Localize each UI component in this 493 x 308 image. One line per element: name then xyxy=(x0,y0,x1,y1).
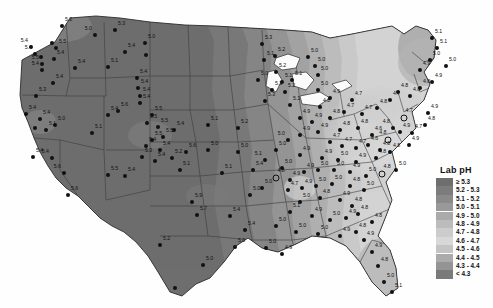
station-value-label: 5.0 xyxy=(269,239,276,244)
station-value-label: 4.7 xyxy=(333,133,340,138)
station-value-label: 5.4 xyxy=(143,94,150,99)
station-marker: 5.4 xyxy=(40,68,44,72)
open-circle-icon xyxy=(379,171,386,178)
filled-dot-icon xyxy=(280,252,284,256)
station-value-label: 4.8 xyxy=(393,143,400,148)
filled-dot-icon xyxy=(40,68,44,72)
station-marker: 5.0 xyxy=(53,123,57,127)
station-value-label: 5.0 xyxy=(148,34,155,39)
station-value-label: 5.0 xyxy=(369,167,376,172)
legend-title: Lab pH xyxy=(440,165,493,175)
station-value-label: 4.8 xyxy=(383,141,390,146)
station-marker: 4.9 xyxy=(362,238,366,242)
filled-dot-icon xyxy=(374,156,378,160)
station-marker: 5.1 xyxy=(288,103,292,107)
station-marker: 4.8 xyxy=(356,126,360,130)
station-value-label: 5.1 xyxy=(111,58,118,63)
station-value-label: 5.0 xyxy=(337,161,344,166)
station-marker: 5.4 xyxy=(228,214,232,218)
station-marker: 5.3 xyxy=(34,94,38,98)
filled-dot-icon xyxy=(366,143,370,147)
station-value-label: 4.9 xyxy=(307,163,314,168)
station-marker: 5.4 xyxy=(138,101,142,105)
filled-dot-icon xyxy=(356,212,360,216)
station-value-label: 5.0 xyxy=(321,161,328,166)
station-value-label: 5.0 xyxy=(321,66,328,71)
filled-dot-icon xyxy=(220,171,224,175)
station-marker: 5.0 xyxy=(330,182,334,186)
station-value-label: 4.8 xyxy=(384,164,391,169)
filled-dot-icon xyxy=(418,68,422,72)
filled-dot-icon xyxy=(328,140,332,144)
station-value-label: 5.0 xyxy=(449,57,456,62)
legend-label: 4.8 - 4.9 xyxy=(456,220,479,228)
station-value-label: 4.9 xyxy=(303,126,310,131)
station-marker: 4.9 xyxy=(298,116,302,120)
station-marker: 4.9 xyxy=(316,130,320,134)
filled-dot-icon xyxy=(206,148,210,152)
station-value-label: 5.6 xyxy=(54,164,61,169)
station-marker: 5.5 xyxy=(40,62,44,66)
legend-row: 4.3 - 4.4 xyxy=(436,262,493,270)
station-marker: 5.0 xyxy=(274,148,278,152)
station-marker: 5.1 xyxy=(390,290,394,294)
station-value-label: 4.7 xyxy=(365,105,372,110)
station-value-label: 5.1 xyxy=(255,151,262,156)
filled-dot-icon xyxy=(273,54,277,58)
station-marker: 5.5 xyxy=(106,173,110,177)
station-value-label: 4.7 xyxy=(359,139,366,144)
filled-dot-icon xyxy=(407,143,411,147)
station-marker: 5.4 xyxy=(138,94,142,98)
legend-swatch xyxy=(436,195,453,203)
filled-dot-icon xyxy=(388,150,392,154)
station-value-label: 4.8 xyxy=(353,177,360,182)
filled-dot-icon xyxy=(274,70,278,74)
station-marker: 4.7 xyxy=(360,112,364,116)
filled-dot-icon xyxy=(243,228,247,232)
station-value-label: 5.0 xyxy=(211,141,218,146)
filled-dot-icon xyxy=(178,168,182,172)
legend-row: 5.1 - 5.2 xyxy=(436,195,493,203)
station-marker: 4.9 xyxy=(418,68,422,72)
filled-dot-icon xyxy=(338,198,342,202)
filled-dot-icon xyxy=(135,76,139,80)
station-marker: 5.0 xyxy=(248,193,252,197)
filled-dot-icon xyxy=(313,64,317,68)
legend-label: 4.7 - 4.8 xyxy=(456,228,479,236)
station-marker: 5.0 xyxy=(93,33,97,37)
filled-dot-icon xyxy=(260,186,264,190)
station-marker: 5.4 xyxy=(50,156,54,160)
station-marker: 4.9 xyxy=(302,170,306,174)
station-value-label: 4.7 xyxy=(355,91,362,96)
station-value-label: 5.0 xyxy=(279,141,286,146)
station-value-label: 5.4 xyxy=(21,38,28,43)
filled-dot-icon xyxy=(318,105,322,109)
station-marker: 5.0 xyxy=(313,64,317,68)
filled-dot-icon xyxy=(158,243,162,247)
station-marker: 4.9 xyxy=(338,198,342,202)
station-value-label: 4.8 xyxy=(333,109,340,114)
station-value-label: 5.0 xyxy=(299,223,306,228)
station-value-label: 5.3 xyxy=(118,21,125,26)
station-value-label: 5.1 xyxy=(440,39,447,44)
station-value-label: 4.8 xyxy=(361,205,368,210)
station-marker: 5.3 xyxy=(113,28,117,32)
station-value-label: 4.8 xyxy=(359,223,366,228)
station-marker: 5.4 xyxy=(51,81,55,85)
station-value-label: 4.9 xyxy=(303,146,310,151)
station-value-label: 5.4 xyxy=(42,149,49,154)
station-value-label: 5.2 xyxy=(163,236,170,241)
station-marker: 5.0 xyxy=(382,280,386,284)
station-value-label: 5.0 xyxy=(85,26,92,31)
station-value-label: 5.4 xyxy=(128,167,135,172)
station-value-label: 5.3 xyxy=(268,92,275,97)
station-value-label: 4.9 xyxy=(325,149,332,154)
station-marker: 5.5 xyxy=(145,121,149,125)
station-value-label: 5.0 xyxy=(311,48,318,53)
station-marker xyxy=(39,55,43,59)
station-value-label: 5.0 xyxy=(58,116,65,121)
station-value-label: 4.8 xyxy=(379,149,386,154)
station-value-label: 4.7 xyxy=(347,103,354,108)
station-value-label: 4.9 xyxy=(343,191,350,196)
filled-dot-icon xyxy=(316,232,320,236)
